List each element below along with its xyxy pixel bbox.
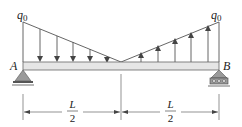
support-a-label: A bbox=[9, 59, 18, 73]
svg-text:2: 2 bbox=[168, 112, 174, 124]
svg-text:2: 2 bbox=[70, 112, 76, 124]
right-distributed-load bbox=[121, 22, 219, 62]
svg-text:L: L bbox=[166, 98, 173, 110]
left-distributed-load bbox=[23, 22, 121, 62]
dimension-lines bbox=[23, 74, 219, 120]
left-load-label: q0 bbox=[17, 8, 28, 23]
svg-text:L: L bbox=[68, 98, 75, 110]
beam-diagram: q0 q0 A B L 2 L 2 bbox=[0, 0, 242, 127]
beam bbox=[23, 62, 219, 70]
support-b-label: B bbox=[223, 59, 231, 73]
dimension-label-right: L 2 bbox=[165, 98, 176, 124]
dimension-label-left: L 2 bbox=[67, 98, 78, 124]
right-load-label: q0 bbox=[211, 8, 222, 23]
